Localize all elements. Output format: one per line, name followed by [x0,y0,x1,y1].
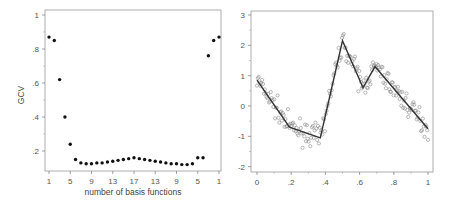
observation-point [362,79,365,82]
observation-point [323,130,326,133]
x-tick-label: 1 [426,178,431,187]
x-tick-label: .8 [390,178,397,187]
observation-point [276,94,279,97]
observation-point [317,142,320,145]
fitted-line [257,41,428,138]
x-tick-label: .6 [356,178,363,187]
fitted-curve-plot: 3210-1-20.2.4.6.81 [0,0,450,203]
observation-point [421,117,424,120]
observation-point [337,46,340,49]
observation-point [426,138,429,141]
y-tick-label: 3 [241,11,246,20]
observation-point [286,108,289,111]
observation-point [358,69,361,72]
observation-point [280,119,283,122]
observation-point [398,97,401,100]
observation-point [384,87,387,90]
observation-point [407,115,410,118]
x-tick-label: 0 [255,178,260,187]
observation-point [299,126,302,129]
observation-point [357,90,360,93]
observation-point [277,116,280,119]
observation-point [423,135,426,138]
y-tick-label: 0 [241,102,246,111]
observation-point [273,117,276,120]
observation-point [267,101,270,104]
observation-point [309,145,312,148]
observation-point [387,72,390,75]
observation-point [365,76,368,79]
observation-point [313,129,316,132]
observation-point [314,121,317,124]
observation-point [301,146,304,149]
observation-point [407,111,410,114]
observation-point [371,61,374,64]
observation-point [255,84,258,87]
y-tick-label: -1 [238,132,246,141]
observation-point [405,92,408,95]
observation-point [303,135,306,138]
observation-point [316,138,319,141]
y-tick-label: 1 [241,72,246,81]
observation-point [426,129,429,132]
x-tick-label: .2 [288,178,295,187]
observation-point [269,90,272,93]
x-tick-label: .4 [322,178,329,187]
plot-frame [251,11,433,172]
y-tick-label: -2 [238,163,246,172]
observation-point [369,83,372,86]
observation-point [418,105,421,108]
observation-point [417,111,420,114]
observation-point [298,117,301,120]
observation-point [420,129,423,132]
observation-point [364,91,367,94]
observation-point [420,130,423,133]
y-tick-label: 2 [241,41,246,50]
figure: 1.8.6.4.2159131713951number of basis fun… [0,0,450,203]
observation-point [404,96,407,99]
observation-point [261,78,264,81]
